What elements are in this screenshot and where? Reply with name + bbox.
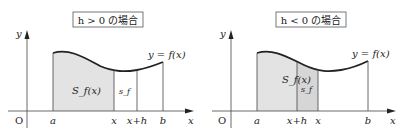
panel-h-positive: h > 0 の場合 y x O y = f(x) S_f(x) s_f a x … (0, 0, 202, 134)
y-axis-arrow-icon (25, 30, 30, 39)
title-box (73, 12, 143, 27)
x-axis-arrow-icon (185, 109, 194, 114)
y-axis-arrow-icon (229, 30, 234, 39)
panel-h-negative: h < 0 の場合 y x O y = f(x) S_f(x) s_f a x+… (202, 0, 404, 134)
x-axis-arrow-icon (387, 109, 396, 114)
graph-h-positive (0, 0, 202, 134)
title-box (276, 12, 346, 27)
graph-h-negative (202, 0, 404, 134)
